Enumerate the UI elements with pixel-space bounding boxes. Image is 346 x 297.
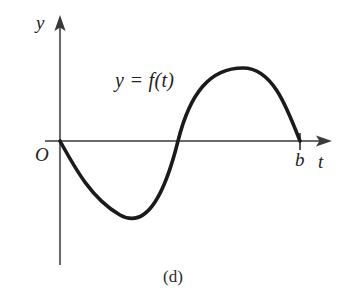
function-equation-label: y = f(t) [115, 70, 174, 90]
figure-container: y t O b y = f(t) (d) [0, 0, 346, 297]
x-axis-label: t [318, 152, 323, 171]
origin-label: O [35, 145, 49, 164]
figure-caption: (d) [0, 268, 346, 285]
x-intercept-label-b: b [295, 150, 305, 169]
y-axis-label: y [36, 13, 44, 32]
function-curve [60, 68, 300, 218]
